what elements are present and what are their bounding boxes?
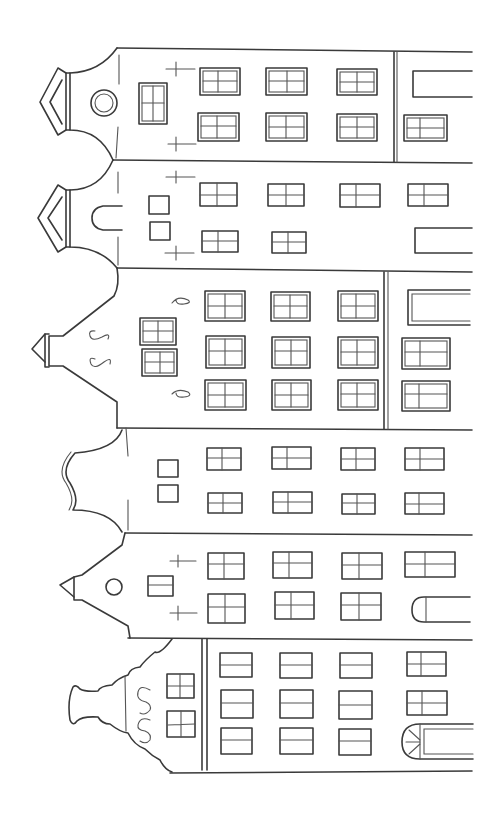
house-2 <box>38 160 472 272</box>
house-1 <box>40 48 472 163</box>
house-5 <box>60 533 472 640</box>
canal-houses-drawing: Canal houses line drawing (rotated 90°) <box>0 0 499 816</box>
house-3-windows <box>205 291 450 411</box>
house-6 <box>69 639 473 773</box>
house-6-windows <box>220 652 447 755</box>
house-4-windows <box>207 447 444 514</box>
house-1-windows <box>198 68 447 141</box>
house-2-windows <box>200 183 448 253</box>
house-5-windows <box>208 552 455 623</box>
line-art-svg <box>0 0 499 816</box>
house-4 <box>62 428 472 535</box>
house-3 <box>32 268 472 430</box>
